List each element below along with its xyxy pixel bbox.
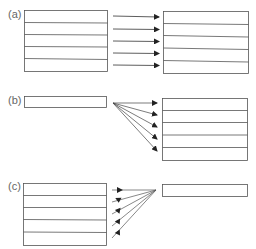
panel-a-arrows xyxy=(113,16,159,66)
panel-a-target-table xyxy=(164,12,249,74)
panel-b-target-table xyxy=(163,99,248,161)
panel-c-label: (c) xyxy=(8,180,21,192)
panel-b-source-row xyxy=(25,97,107,108)
panel-b-label: (b) xyxy=(8,94,21,106)
panel-a: (a) xyxy=(8,8,249,74)
panel-c-target-row xyxy=(163,185,248,197)
mapping-diagram: (a) (b) xyxy=(0,0,256,249)
panel-a-label: (a) xyxy=(8,8,21,20)
panel-c: (c) xyxy=(8,180,248,246)
panel-a-source-table xyxy=(25,11,108,72)
panel-b: (b) xyxy=(8,94,248,161)
panel-c-source-table xyxy=(24,184,107,246)
panel-b-arrows xyxy=(113,103,157,151)
